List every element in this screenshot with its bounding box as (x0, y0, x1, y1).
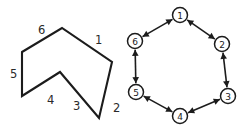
graph-node-3[interactable]: 3 (221, 89, 236, 104)
node-label-4: 4 (177, 112, 183, 122)
graph-node-group: 123456 (128, 8, 236, 124)
polygon-edge-label-5: 5 (10, 67, 17, 81)
arrow-head (208, 33, 215, 39)
graph-edge-6-1 (143, 19, 173, 36)
graph-node-6[interactable]: 6 (128, 34, 143, 49)
polygon-edge-label-2: 2 (113, 101, 120, 115)
graph-edge-4-5 (144, 96, 173, 112)
graph-node-5[interactable]: 5 (129, 85, 144, 100)
node-label-6: 6 (132, 37, 138, 47)
polygon-edge-label-1: 1 (95, 33, 102, 47)
polygon-edge-label-4: 4 (47, 93, 54, 107)
node-label-3: 3 (225, 92, 231, 102)
node-label-5: 5 (133, 88, 139, 98)
graph-edge-3-4 (188, 99, 220, 114)
polygon-edge-label-3: 3 (73, 99, 80, 113)
graph-edge-2-3 (220, 53, 229, 88)
arrow-head (132, 77, 139, 83)
graph-node-4[interactable]: 4 (173, 109, 188, 124)
graph-edge-5-6 (132, 50, 139, 84)
arrow-head (132, 50, 139, 56)
node-label-2: 2 (219, 40, 225, 50)
graph-edge-group (132, 19, 230, 113)
node-label-1: 1 (177, 11, 183, 21)
graph-node-1[interactable]: 1 (173, 8, 188, 23)
arrow-head (187, 20, 194, 26)
graph-edge-1-2 (187, 20, 215, 39)
polygon-edge-label-6: 6 (38, 23, 45, 37)
graph-node-2[interactable]: 2 (215, 37, 230, 52)
figure-canvas: 123456 123456 (0, 0, 247, 131)
diagram-svg: 123456 123456 (0, 0, 247, 131)
